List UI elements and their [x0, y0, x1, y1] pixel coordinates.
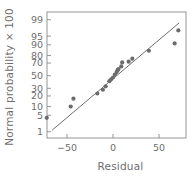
data-point: [71, 97, 75, 101]
data-point: [101, 88, 105, 92]
normal-reference-line: [52, 23, 179, 130]
y-tick-label: 30: [31, 83, 43, 94]
x-axis-title: Residual: [98, 160, 144, 172]
data-point: [95, 91, 99, 95]
x-tick-label: 0: [110, 142, 116, 153]
x-tick-label: −50: [57, 142, 77, 153]
y-tick-label: 80: [31, 50, 43, 61]
data-point: [69, 104, 73, 108]
data-point: [119, 64, 123, 68]
data-point: [176, 28, 180, 32]
data-point: [173, 41, 177, 45]
normal-probability-plot: 15102030507080909599−50050ResidualNormal…: [0, 0, 195, 177]
chart-canvas: 15102030507080909599−50050ResidualNormal…: [0, 0, 195, 177]
y-tick-label: 1: [37, 126, 43, 137]
data-point: [130, 57, 134, 61]
data-point: [120, 60, 124, 64]
x-tick-label: 50: [153, 142, 165, 153]
data-point: [147, 49, 151, 53]
y-tick-label: 50: [31, 70, 43, 81]
data-point: [104, 84, 108, 88]
y-tick-label: 99: [31, 14, 43, 25]
y-tick-label: 10: [31, 101, 43, 112]
y-tick-label: 95: [31, 31, 43, 42]
y-axis-title: Normal probability × 100: [3, 8, 15, 146]
data-point: [45, 116, 49, 120]
data-point: [127, 60, 131, 64]
